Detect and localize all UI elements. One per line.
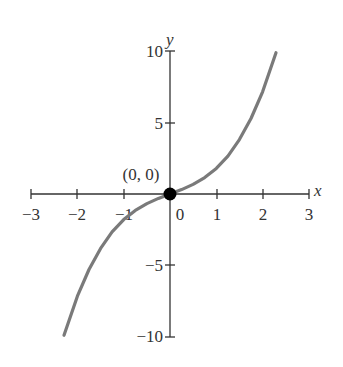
x-tick-label: 3 bbox=[305, 205, 314, 224]
x-tick-label: 0 bbox=[176, 205, 185, 224]
y-axis-label: y bbox=[164, 30, 174, 49]
y-tick-label: −10 bbox=[136, 327, 163, 346]
x-tick-label: 1 bbox=[213, 205, 222, 224]
x-tick-label: −3 bbox=[22, 205, 40, 224]
function-graph: −3 −2 −1 0 1 2 3 x −10 −5 5 10 y (0, 0) bbox=[0, 0, 343, 367]
y-tick-label: 10 bbox=[146, 42, 163, 61]
x-tick-label: 2 bbox=[259, 205, 268, 224]
y-tick-label: −5 bbox=[145, 256, 163, 275]
origin-point-marker bbox=[164, 188, 177, 201]
y-tick-label: 5 bbox=[155, 114, 164, 133]
x-tick-label: −2 bbox=[68, 205, 86, 224]
x-axis-label: x bbox=[313, 181, 322, 200]
origin-point-label: (0, 0) bbox=[123, 165, 160, 184]
x-axis: −3 −2 −1 0 1 2 3 x bbox=[22, 181, 322, 224]
